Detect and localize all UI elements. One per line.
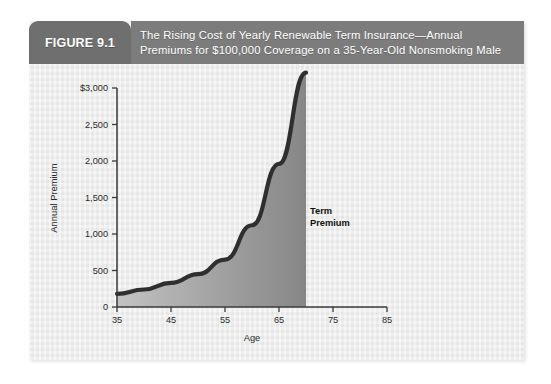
y-tick-label: 2,500	[85, 120, 108, 130]
y-axis-title: Annual Premium	[48, 163, 59, 232]
y-axis-tick-labels: 05001,0001,5002,0002,500$3,000	[80, 83, 108, 312]
x-tick-label: 85	[382, 315, 392, 325]
y-tick-label: 500	[93, 266, 108, 276]
x-tick-label: 65	[274, 315, 284, 325]
term-premium-annotation-line-2: Premium	[310, 218, 350, 228]
x-tick-label: 55	[220, 315, 230, 325]
premium-area-chart: 05001,0001,5002,0002,500$3,000 354555657…	[29, 64, 524, 360]
term-premium-area	[117, 73, 306, 307]
figure-title: The Rising Cost of Yearly Renewable Term…	[140, 28, 501, 57]
y-tick-label: 1,000	[85, 229, 108, 239]
figure-page: FIGURE 9.1 The Rising Cost of Yearly Ren…	[0, 0, 551, 384]
y-tick-label: 2,000	[85, 156, 108, 166]
x-axis-title: Age	[244, 332, 261, 343]
x-tick-label: 45	[166, 315, 176, 325]
figure-header: FIGURE 9.1 The Rising Cost of Yearly Ren…	[29, 21, 524, 64]
x-tick-label: 75	[328, 315, 338, 325]
x-axis-tick-labels: 354555657585	[112, 315, 392, 325]
y-tick-label: 0	[103, 302, 108, 312]
y-tick-label: 1,500	[85, 193, 108, 203]
figure-number-tab: FIGURE 9.1	[29, 21, 131, 64]
figure-title-line-2: Premiums for $100,000 Coverage on a 35-Y…	[140, 43, 501, 58]
figure-number-label: FIGURE 9.1	[45, 36, 115, 50]
y-tick-label: $3,000	[80, 83, 108, 93]
x-tick-label: 35	[112, 315, 122, 325]
figure-title-band: The Rising Cost of Yearly Renewable Term…	[131, 21, 524, 64]
chart-container: 05001,0001,5002,0002,500$3,000 354555657…	[29, 64, 524, 360]
figure-title-line-1: The Rising Cost of Yearly Renewable Term…	[140, 28, 501, 43]
term-premium-annotation-line-1: Term	[310, 206, 332, 216]
